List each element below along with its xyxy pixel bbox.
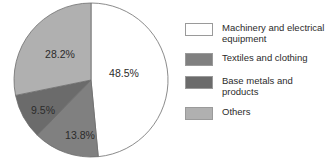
legend-item-textiles-and-clothing[interactable]: Textiles and clothing	[185, 52, 326, 66]
pie-slice-value-label: 9.5%	[31, 104, 55, 116]
pie-chart-figure: 48.5%13.8%9.5%28.2% Machinery and electr…	[0, 0, 326, 164]
legend-swatch-others	[185, 107, 213, 120]
pie-slice-value-label: 48.5%	[109, 67, 139, 79]
pie-slice-value-label: 28.2%	[45, 48, 75, 60]
legend-swatch-machinery-and-electrical-equipment	[185, 23, 213, 36]
legend-label-base-metals-and-products: Base metals and products	[222, 75, 326, 97]
pie-chart-plot-area: 48.5%13.8%9.5%28.2%	[0, 0, 186, 164]
pie-chart-svg: 48.5%13.8%9.5%28.2%	[0, 0, 186, 164]
legend-item-machinery-and-electrical-equipment[interactable]: Machinery and electrical equipment	[185, 22, 326, 44]
legend-label-machinery-and-electrical-equipment: Machinery and electrical equipment	[222, 22, 324, 44]
legend-swatch-base-metals-and-products	[185, 76, 213, 89]
legend-item-others[interactable]: Others	[185, 106, 326, 120]
legend-label-others: Others	[222, 106, 251, 117]
legend-label-textiles-and-clothing: Textiles and clothing	[222, 52, 308, 63]
legend-swatch-textiles-and-clothing	[185, 53, 213, 66]
legend: Machinery and electrical equipment Texti…	[185, 22, 326, 120]
pie-slice-value-label: 13.8%	[65, 129, 95, 141]
pie-slice[interactable]	[91, 3, 168, 157]
legend-item-base-metals-and-products[interactable]: Base metals and products	[185, 75, 326, 97]
